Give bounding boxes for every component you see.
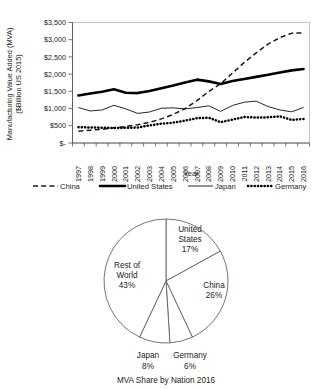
x-tick-label: 2009 — [216, 166, 225, 182]
pie-label-japan: Japan — [137, 351, 160, 360]
pie-value-china: 26% — [206, 291, 222, 300]
pie-value-rest-of-world: 43% — [119, 281, 135, 290]
y-tick-label: $500 — [50, 121, 66, 130]
y-axis-ticks — [69, 23, 73, 144]
pie-label-china: China — [203, 281, 225, 290]
y-axis-title-line1: Manufacturing Value Added (MVA) — [5, 28, 14, 141]
y-tick-label: $2,500 — [44, 53, 66, 62]
x-tick-label: 2001 — [121, 166, 130, 182]
pie-value-united-states: 17% — [182, 245, 198, 254]
legend-item-china[interactable]: China — [33, 182, 81, 191]
pie-label-rest-of-world-line1: Rest of — [114, 261, 141, 270]
pie-value-germany: 6% — [184, 362, 196, 371]
x-axis-ticks — [73, 143, 310, 147]
pie-slice-label-japan: Japan 8% — [137, 351, 160, 371]
pie-slice-label-germany: Germany 6% — [173, 351, 208, 371]
y-tick-label: $1,000 — [44, 104, 66, 113]
legend-item-germany[interactable]: Germany — [248, 182, 306, 191]
legend-item-united-states[interactable]: United States — [100, 182, 173, 191]
pie-value-japan: 8% — [142, 362, 154, 371]
figure-container: $3,500 $3,000 $2,500 $2,000 $1,500 $1,00… — [0, 0, 331, 389]
pie-label-united-states-line1: United — [178, 225, 202, 234]
x-tick-label: 2005 — [169, 166, 178, 182]
legend-label-china: China — [60, 182, 81, 191]
figure-svg: $3,500 $3,000 $2,500 $2,000 $1,500 $1,00… — [0, 0, 331, 389]
x-tick-label: 1998 — [86, 166, 95, 182]
chart-legend: China United States Japan Germany — [33, 182, 306, 191]
line-chart: $3,500 $3,000 $2,500 $2,000 $1,500 $1,00… — [5, 18, 310, 191]
x-tick-label: 2015 — [287, 166, 296, 182]
y-tick-label: $3,500 — [44, 18, 66, 27]
x-tick-label: 2000 — [110, 166, 119, 182]
y-axis-title-line2: ($Billion US 2015) — [14, 54, 23, 114]
pie-label-united-states-line2: States — [178, 235, 201, 244]
x-axis-title: Year — [184, 169, 199, 178]
y-axis-tick-labels: $3,500 $3,000 $2,500 $2,000 $1,500 $1,00… — [44, 18, 67, 148]
x-tick-label: 2016 — [299, 166, 308, 182]
y-tick-label: $2,000 — [44, 70, 66, 79]
x-tick-label: 2012 — [252, 166, 261, 182]
legend-label-united-states: United States — [127, 182, 173, 191]
y-tick-label: $3,000 — [44, 35, 66, 44]
x-tick-label: 2014 — [275, 166, 284, 182]
x-tick-label: 2011 — [240, 166, 249, 181]
x-tick-label: 2008 — [204, 166, 213, 182]
data-series-group — [78, 33, 303, 131]
series-line-united-states — [78, 69, 303, 96]
series-line-germany — [78, 116, 303, 128]
y-axis-title: Manufacturing Value Added (MVA) ($Billio… — [5, 28, 23, 141]
legend-label-germany: Germany — [275, 182, 306, 191]
pie-chart-caption: MVA Share by Nation 2016 — [117, 376, 216, 385]
x-tick-label: 2002 — [133, 166, 142, 182]
legend-item-japan[interactable]: Japan — [188, 182, 236, 191]
x-tick-label: 2010 — [228, 166, 237, 182]
x-tick-label: 1997 — [74, 166, 83, 182]
series-line-japan — [78, 101, 303, 113]
y-tick-label: $- — [60, 139, 67, 148]
pie-label-germany: Germany — [173, 351, 208, 360]
y-tick-label: $1,500 — [44, 87, 66, 96]
x-tick-label: 1999 — [98, 166, 107, 182]
legend-label-japan: Japan — [215, 182, 236, 191]
pie-slice-label-china: China 26% — [203, 281, 225, 300]
pie-chart: United States 17% China 26% Rest of Worl… — [104, 219, 228, 385]
x-tick-label: 2003 — [145, 166, 154, 182]
x-tick-label: 2013 — [264, 166, 273, 182]
x-tick-label: 2004 — [157, 166, 166, 182]
pie-label-rest-of-world-line2: World — [116, 271, 138, 280]
